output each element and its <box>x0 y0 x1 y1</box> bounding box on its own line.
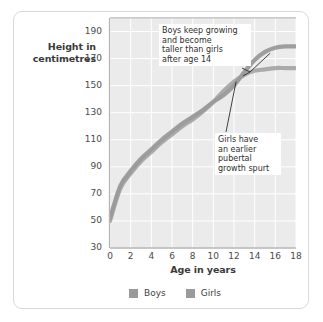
y-tick-190: 190 <box>80 26 102 36</box>
y-tick-150: 150 <box>80 80 102 90</box>
x-tick-16: 16 <box>267 251 283 261</box>
y-tick-50: 50 <box>80 215 102 225</box>
y-tick-130: 130 <box>80 107 102 117</box>
plot-top-border <box>110 17 296 19</box>
y-tick-170: 170 <box>80 53 102 63</box>
x-axis-title: Age in years <box>110 264 296 276</box>
legend-swatch-girls <box>186 289 195 298</box>
y-tick-110: 110 <box>80 134 102 144</box>
legend-label-boys: Boys <box>144 288 166 298</box>
x-tick-4: 4 <box>143 251 159 261</box>
x-tick-0: 0 <box>102 251 118 261</box>
annotation-boys-note: Boys keep growing and become taller than… <box>159 24 251 66</box>
x-tick-12: 12 <box>226 251 242 261</box>
annotation-girls-note: Girls have an earlier pubertal growth sp… <box>215 133 281 175</box>
legend-item-girls: Girls <box>186 288 221 298</box>
x-tick-18: 18 <box>288 251 304 261</box>
chart-legend: Boys Girls <box>100 286 250 300</box>
legend-swatch-boys <box>129 289 138 298</box>
growth-chart-figure: Height in centimetres 305070901101301501… <box>0 0 323 322</box>
y-tick-30: 30 <box>80 242 102 252</box>
x-tick-14: 14 <box>247 251 263 261</box>
y-tick-90: 90 <box>80 161 102 171</box>
legend-item-boys: Boys <box>129 288 166 298</box>
x-tick-10: 10 <box>205 251 221 261</box>
y-tick-70: 70 <box>80 188 102 198</box>
x-tick-8: 8 <box>185 251 201 261</box>
legend-label-girls: Girls <box>201 288 221 298</box>
x-tick-2: 2 <box>123 251 139 261</box>
x-tick-6: 6 <box>164 251 180 261</box>
